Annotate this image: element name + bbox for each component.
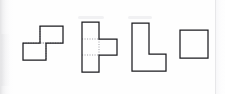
- figure-s-shape-drawing: [21, 24, 65, 62]
- square-shape-outline: [180, 30, 208, 58]
- figure-t-shape: [80, 20, 119, 74]
- figure-s-shape: [21, 24, 65, 62]
- figure-l-shape: [130, 21, 168, 73]
- figure-square-shape: [178, 28, 210, 60]
- figure-l-shape-drawing: [130, 21, 168, 73]
- figure-row: [0, 0, 225, 94]
- figure-t-shape-drawing: [80, 20, 119, 74]
- l-shape-outline: [132, 23, 166, 71]
- t-shape-outline: [82, 22, 117, 72]
- figure-square-shape-drawing: [178, 28, 210, 60]
- scanned-worksheet-canvas: [0, 0, 225, 94]
